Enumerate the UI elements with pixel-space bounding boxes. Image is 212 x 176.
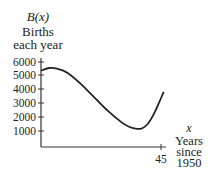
y-tick-label: 5000 (13, 69, 36, 81)
y-tick-labels: 6000 5000 4000 3000 2000 1000 (13, 56, 36, 137)
function-label: B(x) (27, 9, 49, 24)
births-chart: 6000 5000 4000 3000 2000 1000 45 B(x) Bi… (0, 0, 212, 176)
births-curve (41, 68, 164, 129)
x-tick-label: 45 (155, 153, 167, 165)
x-variable-label: x (185, 121, 192, 135)
y-tick-label: 3000 (13, 97, 36, 109)
y-tick-label: 1000 (13, 125, 36, 137)
x-axis-label-line3: 1950 (177, 156, 202, 170)
y-tick-label: 4000 (13, 83, 36, 95)
y-tick-label: 6000 (13, 56, 36, 68)
y-tick-label: 2000 (13, 111, 36, 123)
y-axis-label-line2: each year (13, 37, 63, 52)
